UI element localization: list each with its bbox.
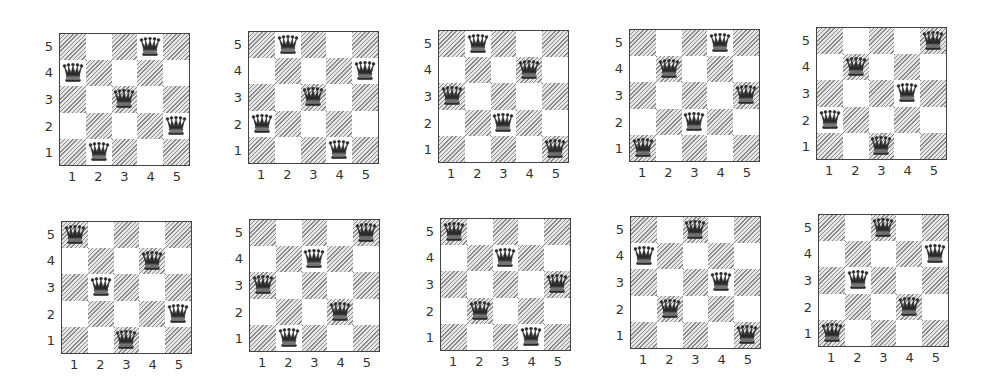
col-label: 4	[140, 357, 166, 375]
queen-icon	[924, 244, 946, 264]
cell-r3-c3	[112, 86, 138, 112]
row-label: 4	[43, 60, 55, 87]
cell-r1-c4	[326, 137, 352, 163]
row-labels: 54321	[802, 214, 814, 347]
cell-r1-c1	[60, 139, 86, 165]
cell-r2-c1	[817, 107, 843, 133]
col-label: 4	[709, 352, 735, 370]
cell-r3-c3	[869, 80, 895, 106]
cell-r1-c4	[894, 133, 920, 159]
cell-r4-c1	[819, 241, 845, 267]
row-label: 1	[424, 324, 436, 351]
row-labels: 54321	[614, 216, 626, 349]
queen-icon	[139, 37, 161, 57]
cell-r1-c4	[707, 135, 733, 161]
row-label: 1	[614, 322, 626, 349]
row-label: 5	[422, 30, 434, 57]
cell-r2-c4	[137, 113, 163, 139]
queen-icon	[632, 138, 654, 158]
col-label: 2	[87, 357, 113, 375]
col-label: 3	[681, 165, 707, 183]
cell-r5-c2	[275, 32, 301, 58]
cell-r1-c2	[465, 136, 491, 162]
col-label: 5	[353, 167, 379, 185]
row-label: 3	[614, 269, 626, 296]
cell-r3-c4	[516, 83, 542, 109]
cell-r2-c2	[276, 299, 302, 325]
cell-r2-c1	[819, 294, 845, 320]
row-label: 1	[232, 137, 244, 164]
cell-r2-c3	[683, 296, 709, 322]
cell-r2-c4	[326, 111, 352, 137]
row-label: 5	[614, 216, 626, 243]
cell-r1-c4	[327, 325, 353, 351]
cell-r4-c1	[441, 245, 467, 271]
cell-r2-c3	[491, 110, 517, 136]
cell-r2-c1	[249, 111, 275, 137]
row-label: 5	[424, 218, 436, 245]
cell-r1-c1	[62, 327, 88, 353]
cell-r5-c5	[352, 32, 378, 58]
cell-r3-c1	[249, 84, 275, 110]
col-label: 1	[630, 352, 656, 370]
col-label: 2	[655, 165, 681, 183]
row-label: 2	[802, 294, 814, 321]
cell-r5-c5	[733, 30, 759, 56]
cell-r4-c4	[896, 241, 922, 267]
cell-r3-c5	[734, 269, 760, 295]
cell-r3-c2	[657, 269, 683, 295]
row-label: 2	[424, 298, 436, 325]
cell-r4-c1	[630, 56, 656, 82]
row-labels: 54321	[43, 33, 55, 166]
row-label: 2	[422, 110, 434, 137]
cell-r4-c5	[353, 246, 379, 272]
cell-r4-c3	[114, 248, 140, 274]
queen-icon	[819, 110, 841, 130]
col-label: 5	[921, 163, 947, 181]
queen-icon	[251, 114, 273, 134]
cell-r1-c1	[250, 325, 276, 351]
col-label: 3	[870, 350, 896, 368]
cell-r1-c4	[518, 324, 544, 350]
cell-r1-c3	[869, 133, 895, 159]
chessboard	[630, 216, 761, 349]
cell-r2-c5	[920, 107, 946, 133]
chessboard	[248, 31, 379, 164]
queen-icon	[821, 323, 843, 343]
cell-r1-c3	[682, 135, 708, 161]
queen-icon	[898, 297, 920, 317]
row-label: 1	[613, 135, 625, 162]
cell-r5-c1	[817, 28, 843, 54]
cell-r5-c2	[845, 215, 871, 241]
cell-r3-c2	[843, 80, 869, 106]
cell-r2-c5	[165, 301, 191, 327]
cell-r3-c2	[845, 267, 871, 293]
cell-r4-c3	[869, 54, 895, 80]
cell-r5-c3	[301, 32, 327, 58]
row-label: 4	[614, 243, 626, 270]
cell-r3-c4	[137, 86, 163, 112]
cell-r5-c1	[631, 217, 657, 243]
cell-r2-c3	[869, 107, 895, 133]
cell-r2-c1	[439, 110, 465, 136]
cell-r4-c5	[733, 56, 759, 82]
queen-icon	[546, 274, 568, 294]
row-label: 5	[802, 214, 814, 241]
cell-r3-c3	[302, 272, 328, 298]
cell-r2-c5	[542, 110, 568, 136]
cell-r1-c1	[817, 133, 843, 159]
cell-r1-c5	[733, 135, 759, 161]
cell-r4-c2	[465, 57, 491, 83]
cell-r2-c1	[441, 298, 467, 324]
col-labels: 12345	[816, 163, 947, 181]
cell-r4-c4	[894, 54, 920, 80]
queen-icon	[165, 116, 187, 136]
cell-r3-c3	[493, 271, 519, 297]
col-label: 4	[138, 169, 164, 187]
col-label: 3	[868, 163, 894, 181]
cell-r3-c2	[276, 272, 302, 298]
queen-icon	[277, 35, 299, 55]
cell-r1-c4	[708, 322, 734, 348]
cell-r4-c4	[326, 58, 352, 84]
cell-r5-c2	[656, 30, 682, 56]
